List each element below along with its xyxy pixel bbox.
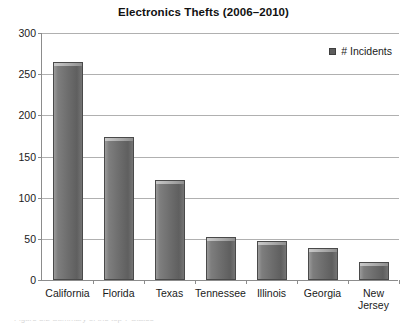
- legend-square-marker-icon: [329, 48, 336, 55]
- y-axis-tick-label: 100: [18, 192, 36, 204]
- y-axis-tick-label: 250: [18, 68, 36, 80]
- bar[interactable]: [155, 180, 185, 280]
- bar[interactable]: [257, 241, 287, 280]
- bar[interactable]: [104, 137, 134, 280]
- bar[interactable]: [359, 262, 389, 280]
- x-axis-tick-mark: [246, 280, 247, 284]
- bar-slot: California: [42, 33, 93, 280]
- x-axis-tick-mark: [348, 280, 349, 284]
- bar-slot: Illinois: [246, 33, 297, 280]
- x-axis-tick-mark: [144, 280, 145, 284]
- bar[interactable]: [53, 62, 83, 280]
- y-axis-tick-label: 50: [24, 233, 36, 245]
- bar[interactable]: [206, 237, 236, 280]
- legend-item-label: # Incidents: [341, 45, 392, 57]
- gridline: [42, 280, 399, 281]
- chart-legend: # Incidents: [329, 45, 392, 57]
- chart-figure: Electronics Thefts (2006–2010) 050100150…: [0, 0, 407, 330]
- x-axis-tick-mark: [399, 280, 400, 284]
- bar-slot: Texas: [144, 33, 195, 280]
- x-axis-tick-mark: [297, 280, 298, 284]
- bars-group: CaliforniaFloridaTexasTennesseeIllinoisG…: [42, 33, 399, 280]
- caption-fragment-text: Figure 3.2 Summary of the top 7 States: [14, 320, 244, 323]
- x-axis-tick-mark: [195, 280, 196, 284]
- bar-slot: Georgia: [297, 33, 348, 280]
- y-axis-tick-mark: [38, 280, 42, 281]
- y-axis-tick-label: 300: [18, 27, 36, 39]
- x-axis-tick-mark: [93, 280, 94, 284]
- bar-slot: New Jersey: [348, 33, 399, 280]
- bar-slot: Tennessee: [195, 33, 246, 280]
- bar[interactable]: [308, 248, 338, 280]
- y-axis-tick-label: 150: [18, 151, 36, 163]
- bar-slot: Florida: [93, 33, 144, 280]
- y-axis-tick-label: 0: [30, 274, 36, 286]
- plot-area: 050100150200250300 CaliforniaFloridaTexa…: [41, 33, 398, 281]
- chart-title: Electronics Thefts (2006–2010): [0, 6, 407, 18]
- x-axis-tick-label: New Jersey: [339, 287, 407, 311]
- caption-fragment: Figure 3.2 Summary of the top 7 States: [14, 320, 244, 330]
- y-axis-tick-label: 200: [18, 109, 36, 121]
